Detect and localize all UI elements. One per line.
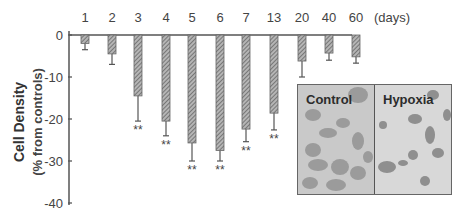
hypoxia-label: Hypoxia bbox=[383, 92, 434, 107]
bar-day-2 bbox=[108, 35, 116, 64]
y-tick-label: -10 bbox=[44, 70, 63, 85]
x-tick-label: 3 bbox=[134, 10, 141, 25]
bar-day-40 bbox=[325, 35, 333, 60]
bar-day-7: ** bbox=[241, 35, 251, 158]
x-tick-label: 13 bbox=[267, 10, 281, 25]
significance-marker: ** bbox=[161, 138, 171, 152]
x-tick-label: 5 bbox=[188, 10, 195, 25]
control-micrograph: Control bbox=[298, 85, 375, 194]
bar-day-5: ** bbox=[187, 35, 197, 177]
x-tick-label: 40 bbox=[322, 10, 336, 25]
bar-day-1 bbox=[81, 35, 89, 50]
bar-day-6: ** bbox=[215, 35, 225, 177]
bar-day-20 bbox=[298, 35, 306, 77]
y-axis-subtitle: (% from controls) bbox=[30, 68, 45, 176]
micrograph-inset: Control Hypoxia bbox=[297, 84, 452, 195]
x-tick-label: 1 bbox=[81, 10, 88, 25]
x-unit-label: (days) bbox=[374, 10, 410, 25]
y-tick-label: -40 bbox=[44, 196, 63, 211]
bar-day-60 bbox=[352, 35, 360, 63]
significance-marker: ** bbox=[133, 123, 143, 137]
y-tick-label: -20 bbox=[44, 112, 63, 127]
bar-day-4: ** bbox=[161, 35, 171, 152]
y-tick-label: -30 bbox=[44, 154, 63, 169]
y-axis-title: Cell Density bbox=[11, 82, 27, 162]
y-tick-label: 0 bbox=[56, 28, 63, 43]
x-axis-labels: 123456713204060(days) bbox=[81, 10, 410, 25]
significance-marker: ** bbox=[269, 132, 279, 146]
hypoxia-micrograph: Hypoxia bbox=[375, 85, 451, 194]
x-tick-label: 2 bbox=[108, 10, 115, 25]
x-tick-label: 6 bbox=[216, 10, 223, 25]
x-tick-label: 60 bbox=[349, 10, 363, 25]
x-tick-label: 7 bbox=[242, 10, 249, 25]
significance-marker: ** bbox=[241, 144, 251, 158]
x-tick-label: 20 bbox=[295, 10, 309, 25]
control-label: Control bbox=[306, 92, 352, 107]
bar-day-3: ** bbox=[133, 35, 143, 137]
bar-day-13: ** bbox=[269, 35, 279, 146]
significance-marker: ** bbox=[187, 163, 197, 177]
x-tick-label: 4 bbox=[162, 10, 169, 25]
significance-marker: ** bbox=[215, 163, 225, 177]
